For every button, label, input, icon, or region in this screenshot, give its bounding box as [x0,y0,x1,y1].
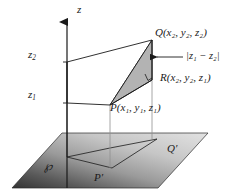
tick-label-z1-sub: 1 [32,94,36,102]
point-label-r: R(x₂, y₂, z₁) [160,72,211,83]
point-label-q: Q(x₂, y₂, z₂) [155,27,207,38]
z-axis-label: z [77,4,81,15]
point-label-q-prime: Q′ [167,143,177,154]
triangle-pqr [110,40,152,105]
tick-label-z2: z2 [28,49,36,60]
distance-formula-figure: z z2 z1 Q(x₂, y₂, z₂) |z₁ − z₂| R(x₂, y₂… [0,0,226,195]
point-label-p-prime: P′ [94,172,103,183]
plane-label: ℘ [44,160,52,172]
tick-label-z1: z1 [28,89,36,100]
point-label-p: P(x₁, y₁, z₁) [110,102,161,113]
vertical-distance-label: |z₁ − z₂| [186,51,220,62]
tick-label-z2-sub: 2 [32,54,36,62]
